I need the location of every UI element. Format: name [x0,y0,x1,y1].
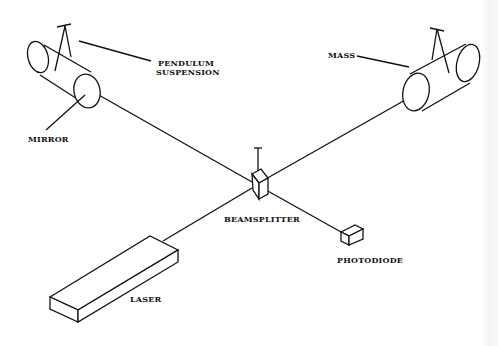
mass-leader-line [357,56,409,67]
pendulum-leader-line [79,41,151,61]
laser [50,236,178,322]
left-mirror-mass [24,24,103,110]
mirror-leader-line [46,95,85,130]
photodiode-label: PHOTODIODE [337,255,403,265]
beamsplitter [252,148,268,199]
right-mass [399,28,483,113]
laser-label: LASER [130,294,162,304]
interferometer-diagram: PENDULUM SUSPENSION MIRROR MASS BEAMSPLI… [0,0,498,346]
beam-left-arm [90,90,252,182]
pendulum-label-2: SUSPENSION [156,67,220,77]
beam-right-arm [264,95,414,180]
mirror-label: MIRROR [28,134,69,144]
photodiode [341,225,363,245]
beam-to-photodiode [266,190,341,232]
mass-label: MASS [328,50,355,60]
beamsplitter-label: BEAMSPLITTER [224,214,300,224]
